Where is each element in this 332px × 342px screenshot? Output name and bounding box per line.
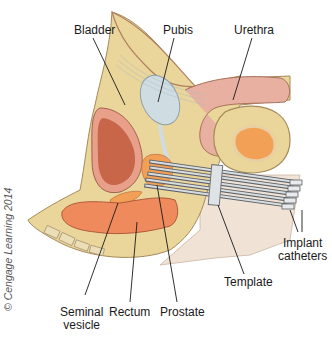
label-implant-catheters: Implant catheters (278, 237, 327, 263)
label-implant-line2: catheters (278, 250, 327, 263)
copyright-notice: © Cengage Learning 2014 (2, 191, 14, 311)
prostate-brachytherapy-illustration (0, 0, 332, 342)
label-rectum: Rectum (109, 306, 150, 319)
label-template: Template (224, 276, 273, 289)
label-urethra: Urethra (234, 24, 274, 37)
label-seminal-line2: vesicle (60, 319, 103, 332)
label-pubis: Pubis (163, 24, 193, 37)
label-seminal-vesicle: Seminal vesicle (60, 306, 103, 332)
label-prostate: Prostate (160, 306, 205, 319)
testis (234, 126, 275, 160)
label-bladder: Bladder (74, 24, 115, 37)
